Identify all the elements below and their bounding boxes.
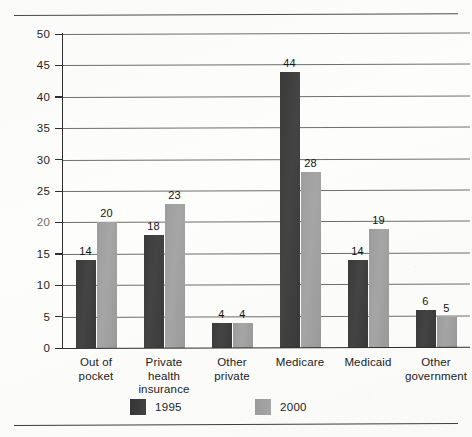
y-tick-label: 5 [24,311,50,323]
x-axis-line [62,347,470,350]
bottom-divider-rule [14,423,458,426]
category-label: Other government [405,356,467,383]
bar-1995-2 [212,323,232,348]
bar-1995-5 [416,310,436,348]
bar-1995-4 [348,260,368,348]
bar-value-label: 23 [168,189,181,201]
y-tick-label: 0 [24,342,50,354]
y-tick-label: 45 [24,59,50,71]
bar-value-label: 18 [147,220,160,232]
gridline [62,95,470,97]
y-tick-label: 30 [24,154,50,166]
gridline [62,284,470,286]
dark-swatch-icon [130,399,146,415]
gridline [62,190,470,192]
y-tick-label: 10 [24,279,50,291]
legend-label-2000: 2000 [280,401,307,413]
y-axis-tick-labels: 05101520253035404550 [20,0,50,437]
legend-item-1995: 1995 [130,399,182,415]
bar-2000-3 [301,172,321,348]
bar-value-label: 19 [372,214,385,226]
bar-2000-4 [369,229,389,348]
light-swatch-icon [255,399,271,415]
bar-1995-1 [144,235,164,348]
y-axis-line [62,33,63,349]
gridline [62,252,470,254]
y-tick-label: 20 [24,216,50,228]
bar-1995-3 [280,72,300,348]
gridline [62,315,470,317]
category-label: Other private [214,356,250,383]
bar-2000-1 [165,204,185,348]
bar-value-label: 4 [239,308,245,320]
gridline [62,33,470,35]
bar-2000-0 [97,222,117,348]
legend-label-1995: 1995 [155,401,182,413]
bar-value-label: 5 [443,302,449,314]
category-label: Medicare [276,356,325,370]
y-tick-label: 15 [24,248,50,260]
category-label: Medicaid [344,356,391,370]
top-divider-rule [14,13,458,16]
bar-value-label: 20 [100,207,113,219]
y-tick-label: 25 [24,185,50,197]
plot-area: 14201823444428141965 [62,34,470,348]
gridline [62,127,470,129]
gridline [62,221,470,223]
gridline [62,64,470,66]
bar-value-label: 14 [351,245,364,257]
bar-value-label: 14 [79,245,92,257]
bar-2000-2 [233,323,253,348]
bar-value-label: 44 [283,57,296,69]
legend-item-2000: 2000 [255,399,307,415]
bar-2000-5 [437,317,457,348]
bar-value-label: 6 [422,295,428,307]
gridline [62,158,470,160]
y-tick-label: 50 [24,28,50,40]
category-label: Out of pocket [79,356,114,383]
chart-figure: Percent 05101520253035404550 14201823444… [0,0,472,437]
y-tick-label: 35 [24,122,50,134]
y-tick-label: 40 [24,91,50,103]
category-label: Private health insurance [138,356,189,397]
bar-value-label: 28 [304,157,317,169]
bar-value-label: 4 [218,308,224,320]
bar-1995-0 [76,260,96,348]
